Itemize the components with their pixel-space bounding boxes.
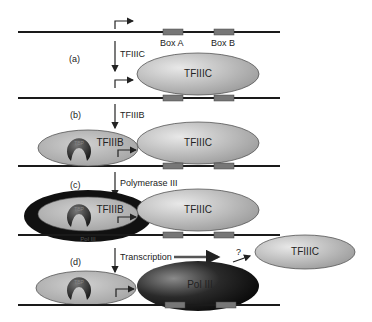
dna-row-3 [18, 122, 280, 169]
dna-row-1 [18, 21, 280, 35]
tfiiic-label: TFIIIC [184, 68, 212, 79]
diagram-canvas: Box A Box B TFIIIC (a) TFIIIC TFIIIB (b)… [0, 0, 372, 322]
pol3-ring-label: Pol III [80, 236, 96, 242]
dna-row-5 [18, 261, 280, 311]
tbp-label: TBP [74, 140, 84, 146]
released-tfiiic-label: TFIIIC [291, 246, 319, 257]
step-d-label: (d) [70, 257, 81, 267]
step-c-label: (c) [70, 180, 81, 190]
box-b [214, 29, 234, 35]
tfiiic-label: TFIIIC [184, 204, 212, 215]
step-b-label: (b) [70, 110, 81, 120]
box-a-label: Box A [160, 38, 184, 48]
pol3-label: Pol III [187, 279, 213, 290]
dna-row-2 [18, 53, 280, 101]
dna-row-4 [18, 189, 280, 242]
tbp-label: TBP [74, 279, 84, 285]
question-mark: ? [236, 247, 241, 257]
step-b-arrow-text: TFIIIB [120, 110, 145, 120]
box-b-label: Box B [211, 38, 235, 48]
step-d-arrow-text: Transcription [120, 252, 172, 262]
tfiiic-label: TFIIIC [184, 137, 212, 148]
tfiiib-label: TFIIIB [96, 204, 124, 215]
box-a [163, 29, 183, 35]
tss-arrow-icon [115, 80, 133, 88]
step-c-arrow-text: Polymerase III [120, 178, 178, 188]
tfiiib-label: TFIIIB [96, 137, 124, 148]
tss-arrow-icon [115, 21, 133, 29]
step-a-arrow-text: TFIIIC [120, 49, 145, 59]
tbp-label: TBP [74, 206, 84, 212]
step-a-label: (a) [69, 54, 80, 64]
